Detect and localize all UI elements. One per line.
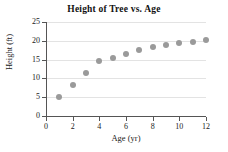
x-tick-mark — [179, 117, 180, 121]
y-tick-mark — [42, 22, 46, 23]
x-tick-mark — [206, 117, 207, 121]
x-tick-mark — [153, 117, 154, 121]
gridline — [47, 97, 206, 98]
x-tick-mark — [99, 117, 100, 121]
data-point — [70, 82, 76, 88]
plot-area: 0510152025 024681012 — [46, 22, 206, 117]
x-tick-mark — [126, 117, 127, 121]
x-tick-mark — [46, 117, 47, 121]
data-point — [190, 39, 196, 45]
y-tick-mark — [42, 78, 46, 79]
gridline — [47, 41, 206, 42]
data-point — [176, 40, 182, 46]
x-tick-label: 10 — [175, 123, 183, 131]
y-tick-label: 0 — [36, 112, 40, 120]
gridline — [47, 78, 206, 79]
y-tick-mark — [42, 97, 46, 98]
x-tick-label: 4 — [97, 123, 101, 131]
data-point — [150, 44, 156, 50]
chart-figure: Height of Tree vs. Age 0510152025 024681… — [0, 0, 228, 152]
x-tick-label: 2 — [71, 123, 75, 131]
data-point — [96, 58, 102, 64]
data-point — [136, 47, 142, 53]
y-tick-mark — [42, 41, 46, 42]
y-tick-mark — [42, 60, 46, 61]
x-tick-label: 8 — [151, 123, 155, 131]
data-point — [110, 55, 116, 61]
data-point — [56, 94, 62, 100]
chart-title: Height of Tree vs. Age — [0, 4, 228, 14]
x-tick-label: 12 — [202, 123, 210, 131]
x-tick-label: 0 — [44, 123, 48, 131]
y-axis-line — [46, 22, 47, 117]
y-tick-label: 20 — [32, 37, 40, 45]
x-axis-label: Age (yr) — [46, 133, 206, 143]
gridline — [47, 60, 206, 61]
data-point — [123, 51, 129, 57]
gridline — [47, 22, 206, 23]
y-tick-label: 5 — [36, 93, 40, 101]
y-tick-label: 25 — [32, 18, 40, 26]
y-tick-label: 15 — [32, 56, 40, 64]
data-point — [83, 70, 89, 76]
data-point — [163, 42, 169, 48]
data-point — [203, 37, 209, 43]
y-tick-label: 10 — [32, 74, 40, 82]
x-tick-mark — [73, 117, 74, 121]
y-axis-label: Height (ft) — [4, 19, 14, 85]
x-tick-label: 6 — [124, 123, 128, 131]
